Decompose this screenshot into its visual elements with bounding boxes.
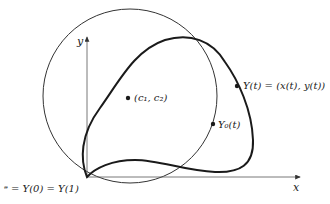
y-axis-label: y [76, 35, 84, 48]
circle-point [211, 122, 215, 126]
diagram-figure: y x (c₁, c₂) Y(t) = (x(t), y(t)) Y₀(t) ᵊ… [0, 0, 330, 204]
curve-point-label: Y(t) = (x(t), y(t)) [243, 80, 325, 91]
center-label: (c₁, c₂) [134, 92, 167, 103]
closed-curve [83, 37, 253, 177]
circle-point-label: Y₀(t) [218, 119, 241, 130]
osculating-circle [43, 9, 217, 183]
curve-point [235, 84, 239, 88]
x-axis-label: x [293, 181, 300, 194]
center-point [126, 96, 130, 100]
origin-label: ᵊ = Y(0) = Y(1) [4, 183, 79, 194]
